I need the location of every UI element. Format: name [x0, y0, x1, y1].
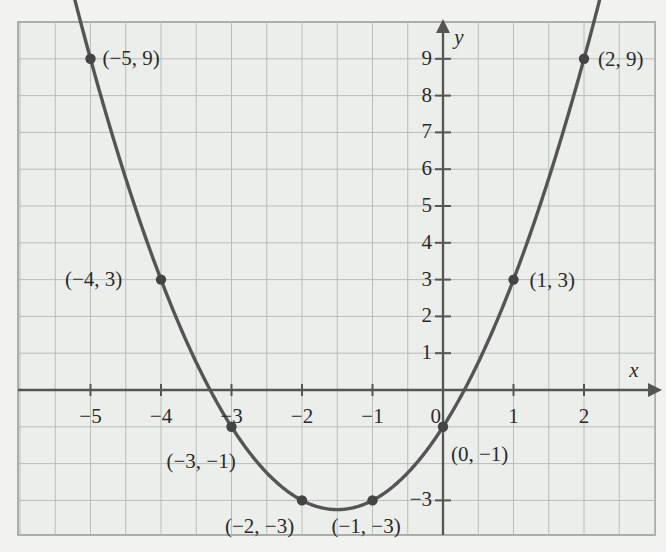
y-tick-label-3: 3 — [422, 269, 433, 290]
x-tick-label-0: −5 — [79, 406, 101, 427]
data-point-4[interactable] — [367, 495, 377, 505]
y-tick-label-5: 5 — [422, 195, 433, 216]
point-label-0: (−5, 9) — [103, 48, 160, 69]
point-label-3: (−2, −3) — [225, 516, 294, 537]
x-axis-label: x — [629, 360, 638, 381]
point-label-6: (1, 3) — [530, 270, 576, 291]
y-tick-label-4: 4 — [422, 232, 433, 253]
y-tick-label-7: 7 — [422, 121, 433, 142]
x-tick-label-7: 2 — [579, 406, 590, 427]
y-tick-label-6: 6 — [422, 158, 433, 179]
y-tick-label-0: −3 — [410, 489, 432, 510]
data-point-1[interactable] — [156, 274, 166, 284]
x-tick-label-1: −4 — [150, 406, 172, 427]
y-axis-label: y — [454, 27, 463, 48]
data-point-6[interactable] — [508, 274, 518, 284]
data-point-0[interactable] — [85, 54, 95, 64]
x-tick-label-4: −1 — [361, 406, 383, 427]
graph-figure: −5−4−3−2−1012−3123456789xy(−5, 9)(−4, 3)… — [0, 0, 666, 552]
data-point-7[interactable] — [579, 54, 589, 64]
x-tick-label-3: −2 — [291, 406, 313, 427]
point-label-5: (0, −1) — [451, 444, 508, 465]
y-tick-label-8: 8 — [422, 85, 433, 106]
point-label-2: (−3, −1) — [167, 451, 236, 472]
point-label-4: (−1, −3) — [332, 516, 401, 537]
point-label-7: (2, 9) — [598, 49, 644, 70]
x-tick-label-2: −3 — [220, 406, 242, 427]
point-label-1: (−4, 3) — [65, 269, 122, 290]
origin-label: 0 — [431, 406, 442, 427]
y-tick-label-9: 9 — [422, 48, 433, 69]
x-tick-label-6: 1 — [508, 406, 519, 427]
y-tick-label-2: 2 — [422, 305, 433, 326]
y-tick-label-1: 1 — [422, 342, 433, 363]
data-point-3[interactable] — [297, 495, 307, 505]
